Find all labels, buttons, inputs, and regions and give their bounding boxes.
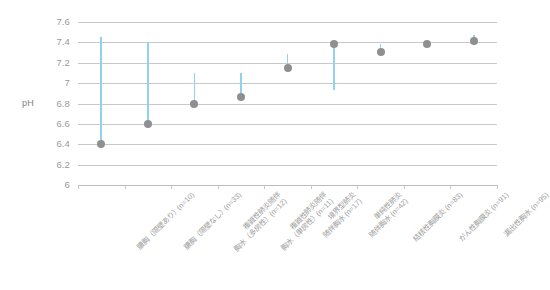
data-point-marker [284,64,292,72]
data-point-marker [190,100,198,108]
data-point-marker [237,93,245,101]
y-gridline [78,22,497,23]
data-point-marker [377,48,385,56]
error-bar-whisker [333,44,335,90]
y-axis-tick-label: 7 [44,77,70,88]
y-gridline [78,144,497,145]
x-axis-tick [264,185,265,189]
y-axis-tick-label: 7.6 [44,16,70,27]
x-axis-category-label: 結核性胸膜炎 (n=83) [412,191,464,243]
y-gridline [78,104,497,105]
y-gridline [78,83,497,84]
error-bar-whisker [194,73,196,104]
y-axis-title: pH [22,98,34,108]
x-axis-tick [171,185,172,189]
x-axis-tick [125,185,126,189]
error-bar-whisker [147,42,149,124]
y-axis-tick-label: 6 [44,179,70,190]
x-axis-tick [218,185,219,189]
error-bar-whisker [100,37,102,144]
y-gridline [78,165,497,166]
y-gridline [78,42,497,43]
x-axis-category-label: 漏出性胸水 (n=95) [503,191,550,239]
x-axis-category-label: がん性胸膜炎 (n=91) [458,191,510,243]
x-axis-tick [78,185,79,189]
y-axis-tick-label: 7.4 [44,36,70,47]
y-axis-tick-label: 6.4 [44,138,70,149]
x-axis-tick [311,185,312,189]
y-axis-tick-label: 6.2 [44,159,70,170]
x-axis-tick [497,185,498,189]
data-point-marker [144,120,152,128]
y-gridline [78,124,497,125]
x-axis-tick [404,185,405,189]
y-axis-tick-label: 6.6 [44,118,70,129]
data-point-marker [330,40,338,48]
x-axis-line [78,185,497,186]
data-point-marker [423,40,431,48]
y-axis-tick-label: 7.2 [44,57,70,68]
y-axis-tick-label: 6.8 [44,98,70,109]
x-axis-category-label: 単純性肺炎随伴胸水 (n=42) [361,191,410,240]
x-axis-tick [450,185,451,189]
data-point-marker [470,37,478,45]
x-axis-tick [357,185,358,189]
data-point-marker [97,140,105,148]
